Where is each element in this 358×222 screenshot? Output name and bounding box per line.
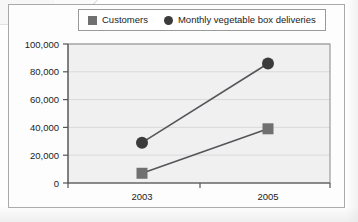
scan-shadow-right: [346, 0, 358, 222]
y-axis-tick-label: 100,000: [25, 39, 59, 50]
data-point-square-marker: [263, 123, 274, 134]
y-axis-tick-label: 80,000: [30, 66, 59, 77]
legend-label-deliveries: Monthly vegetable box deliveries: [178, 15, 316, 25]
chart-svg: 020,00040,00060,00080,000100,00020032005: [0, 0, 358, 222]
data-point-circle-marker: [262, 57, 274, 69]
legend-entry-customers[interactable]: Customers: [88, 15, 148, 25]
data-point-square-marker: [137, 168, 148, 179]
y-axis-tick-label: 20,000: [30, 150, 59, 161]
x-axis-tick-label: 2003: [131, 191, 152, 202]
x-axis-tick-label: 2005: [257, 191, 278, 202]
y-axis-tick-label: 40,000: [30, 122, 59, 133]
legend-entry-deliveries[interactable]: Monthly vegetable box deliveries: [164, 15, 316, 25]
scan-shadow-bottom: [0, 206, 358, 222]
y-axis-tick-label: 0: [54, 178, 59, 189]
plot-background: [68, 44, 330, 183]
legend-label-customers: Customers: [102, 15, 148, 25]
chart-plot-area: 020,00040,00060,00080,000100,00020032005: [0, 0, 358, 222]
y-axis-tick-label: 60,000: [30, 94, 59, 105]
legend-circle-marker-icon: [164, 16, 173, 25]
chart-legend: Customers Monthly vegetable box deliveri…: [78, 9, 326, 31]
legend-square-marker-icon: [88, 16, 97, 25]
data-point-circle-marker: [136, 137, 148, 149]
